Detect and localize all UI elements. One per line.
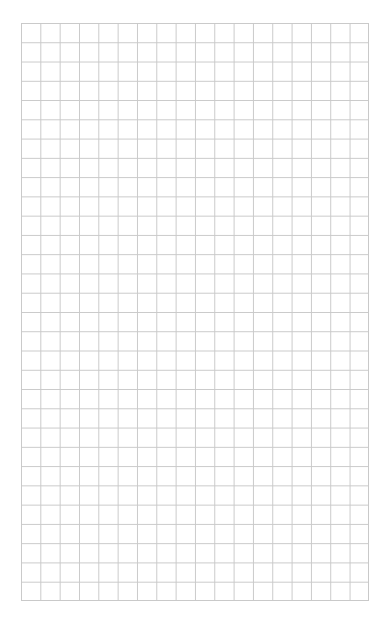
graph-paper-grid (21, 23, 369, 601)
